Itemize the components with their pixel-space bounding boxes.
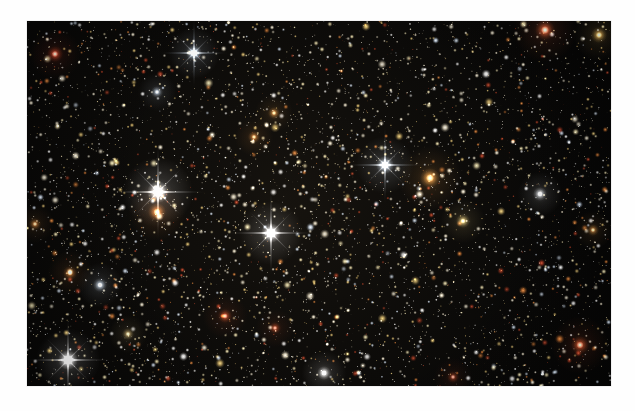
- astronomy-photo: [27, 21, 611, 386]
- starfield-image: [27, 21, 611, 386]
- page-root: [0, 0, 635, 411]
